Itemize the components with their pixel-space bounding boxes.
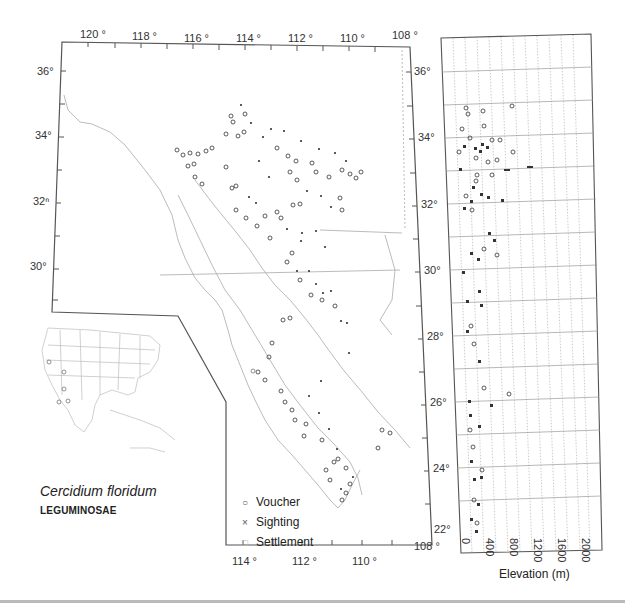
top-lon-label-114: 114 ° bbox=[236, 32, 261, 44]
top-lon-label-120: 120 ° bbox=[80, 28, 106, 40]
top-lon-label-108: 108 ° bbox=[392, 29, 418, 41]
voucher-circle-icon: ○ bbox=[238, 497, 252, 508]
settlement-square-icon: □ bbox=[238, 537, 252, 548]
coastline bbox=[64, 50, 410, 508]
elev-tick-1600: 1600 bbox=[556, 538, 568, 562]
bottom-lon-label-110: 110 ° bbox=[352, 555, 377, 567]
elev-tick-400: 400 bbox=[484, 538, 496, 556]
map-frame bbox=[52, 42, 432, 545]
species-name: Cercidium floridum bbox=[40, 483, 157, 499]
family-name: LEGUMINOSAE bbox=[40, 505, 117, 516]
left-lat-label-30: 30° bbox=[30, 260, 47, 272]
right-lat-label-24: 24° bbox=[433, 462, 450, 474]
legend-sighting-label: Sighting bbox=[256, 515, 299, 529]
elev-tick-1200: 1200 bbox=[532, 538, 544, 562]
elev-tick-800: 800 bbox=[508, 538, 520, 556]
elevation-grid-vertical bbox=[453, 35, 590, 553]
bottom-lon-label-112: 112 ° bbox=[292, 555, 317, 567]
right-lat-label-22: 22° bbox=[434, 523, 451, 535]
elev-tick-0: 0 bbox=[460, 538, 472, 544]
top-lon-label-118: 118 ° bbox=[132, 30, 157, 42]
right-lat-label-34: 34° bbox=[418, 131, 435, 143]
bottom-lon-label-108: 108 ° bbox=[414, 540, 440, 552]
elevation-grid-horizontal bbox=[442, 67, 601, 501]
left-lat-label-34: 34° bbox=[35, 129, 52, 141]
right-lat-label-32: 32° bbox=[421, 198, 438, 210]
legend-voucher-label: Voucher bbox=[256, 495, 300, 509]
sighting-markers bbox=[240, 104, 354, 490]
legend-voucher: ○ Voucher bbox=[238, 492, 313, 512]
right-lat-label-26: 26° bbox=[430, 396, 447, 408]
left-lat-label-36: 36° bbox=[37, 65, 54, 77]
right-lat-label-36: 36° bbox=[414, 65, 431, 77]
voucher-markers bbox=[175, 112, 392, 502]
legend-sighting: × Sighting bbox=[238, 512, 313, 532]
elevation-axis-title: Elevation (m) bbox=[499, 567, 570, 581]
right-lat-label-30: 30° bbox=[424, 264, 441, 276]
right-lat-label-28: 28° bbox=[427, 330, 444, 342]
legend-settlement: □ Settlement bbox=[238, 532, 313, 552]
top-lon-label-110: 110 ° bbox=[340, 32, 365, 44]
bottom-lon-label-114: 114 ° bbox=[232, 555, 257, 567]
map-legend: ○ Voucher × Sighting □ Settlement bbox=[238, 492, 313, 552]
top-lon-label-112: 112 ° bbox=[288, 32, 313, 44]
top-lon-label-116: 116 ° bbox=[184, 32, 209, 44]
elev-tick-2000: 2000 bbox=[580, 538, 592, 562]
page-bottom-rule bbox=[0, 600, 625, 603]
legend-settlement-label: Settlement bbox=[256, 535, 313, 549]
sighting-cross-icon: × bbox=[238, 517, 252, 528]
left-lat-label-32: 32ⁿ bbox=[33, 195, 49, 207]
elevation-panel-frame bbox=[441, 34, 602, 553]
elevation-voucher-points bbox=[457, 104, 515, 525]
